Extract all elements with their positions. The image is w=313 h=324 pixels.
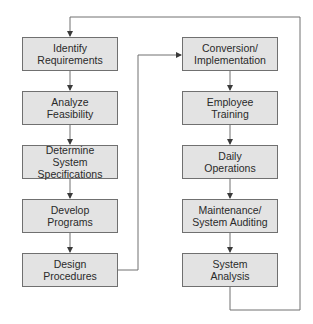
box-develop-programs: Develop Programs: [22, 199, 118, 233]
label-design-procedures: Design Procedures: [43, 258, 97, 282]
box-system-analysis: System Analysis: [182, 253, 278, 287]
box-employee-training: Employee Training: [182, 91, 278, 125]
box-maintenance-system-auditing: Maintenance/ System Auditing: [182, 199, 278, 233]
box-identify-requirements: Identify Requirements: [22, 37, 118, 71]
box-daily-operations: Daily Operations: [182, 145, 278, 179]
label-identify-requirements: Identify Requirements: [37, 42, 102, 66]
box-analyze-feasibility: Analyze Feasibility: [22, 91, 118, 125]
label-system-analysis: System Analysis: [210, 258, 249, 282]
label-maintenance-system-auditing: Maintenance/ System Auditing: [192, 204, 267, 228]
label-employee-training: Employee Training: [207, 96, 254, 120]
label-determine-system-specifications: Determine System Specifications: [23, 144, 117, 180]
label-analyze-feasibility: Analyze Feasibility: [47, 96, 94, 120]
system-lifecycle-diagram: Identify Requirements Analyze Feasibilit…: [0, 0, 313, 324]
label-daily-operations: Daily Operations: [204, 150, 255, 174]
box-determine-system-specifications: Determine System Specifications: [22, 145, 118, 179]
arrow-design-to-conversion: [118, 55, 181, 270]
label-conversion-implementation: Conversion/ Implementation: [194, 42, 266, 66]
label-develop-programs: Develop Programs: [47, 204, 93, 228]
box-design-procedures: Design Procedures: [22, 253, 118, 287]
box-conversion-implementation: Conversion/ Implementation: [182, 37, 278, 71]
